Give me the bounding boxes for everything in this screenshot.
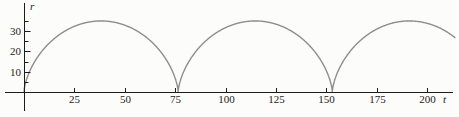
x-tick-label: 100: [218, 93, 235, 105]
x-tick-label: 50: [120, 93, 132, 105]
r-curve: [24, 21, 455, 92]
x-tick-label: 75: [170, 93, 182, 105]
x-tick-label: 200: [419, 93, 436, 105]
x-axis-label: t: [443, 93, 447, 105]
tick-group: 255075100125150175200102030: [10, 22, 436, 106]
x-tick-label: 125: [268, 93, 285, 105]
r-vs-t-figure: 255075100125150175200102030 r t: [0, 0, 459, 117]
curve-group: [24, 21, 455, 92]
y-tick-label: 20: [10, 45, 22, 57]
x-tick-label: 175: [369, 93, 386, 105]
y-axis-label: r: [30, 0, 35, 12]
y-tick-label: 30: [10, 25, 22, 37]
y-tick-label: 10: [10, 66, 22, 78]
r-vs-t-chart: 255075100125150175200102030 r t: [0, 0, 459, 117]
x-tick-label: 150: [318, 93, 335, 105]
x-tick-label: 25: [69, 93, 81, 105]
